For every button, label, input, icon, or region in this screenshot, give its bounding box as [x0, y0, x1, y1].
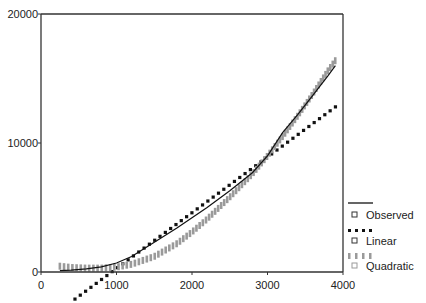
series-quadratic — [59, 57, 337, 271]
legend-item-linear: Linear — [348, 229, 397, 247]
legend-item-observed: Observed — [348, 203, 414, 221]
observed-marker-icon — [352, 212, 357, 217]
quadratic-marker-icon — [352, 263, 357, 268]
legend-label-observed: Observed — [366, 209, 414, 221]
legend: Observed Linear Quadratic — [348, 203, 414, 272]
legend-label-quadratic: Quadratic — [366, 260, 414, 272]
y-tick-label: 10000 — [7, 137, 38, 149]
x-tick-label: 4000 — [331, 279, 355, 291]
y-tick-label: 20000 — [7, 8, 38, 20]
plot-area — [59, 57, 337, 300]
chart: 01000200030004000 01000020000 Observed L… — [0, 0, 426, 303]
y-axis-ticks: 01000020000 — [7, 8, 41, 278]
y-tick-label: 0 — [32, 266, 38, 278]
series-layer — [59, 57, 337, 300]
x-tick-label: 1000 — [104, 279, 128, 291]
series-observed — [60, 66, 336, 271]
dotted-line-swatch-icon — [348, 229, 372, 232]
x-tick-label: 2000 — [180, 279, 204, 291]
hatched-line-swatch-icon — [348, 253, 372, 259]
x-tick-label: 0 — [38, 279, 44, 291]
x-tick-label: 3000 — [255, 279, 279, 291]
x-axis-ticks: 01000200030004000 — [38, 272, 355, 291]
legend-item-quadratic: Quadratic — [348, 253, 414, 272]
legend-label-linear: Linear — [366, 235, 397, 247]
linear-marker-icon — [352, 238, 357, 243]
